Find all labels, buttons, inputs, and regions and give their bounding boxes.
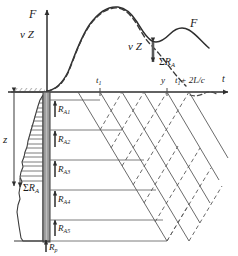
resistance-label-1: RA1: [58, 105, 70, 114]
tick-label-t1: t1: [96, 76, 101, 85]
time-axis-label: t: [222, 74, 225, 84]
resistance-1-base: R: [58, 104, 64, 114]
resistance-1-sub: A1: [64, 109, 71, 115]
resistance-label-2: RA2: [58, 135, 70, 144]
resistance-2-base: R: [58, 134, 64, 144]
depth-label: z: [3, 134, 7, 145]
resistance-label-5: RA5: [58, 224, 70, 233]
resistance-4-base: R: [58, 194, 64, 204]
force-curve-label: F: [190, 17, 197, 29]
resistance-3-sub: A3: [64, 169, 71, 175]
resistance-5-base: R: [58, 223, 64, 233]
velocity-curve-label: v Z: [128, 41, 142, 52]
upgoing-characteristics: [100, 92, 222, 241]
sum-resistance-lower-sub: A: [35, 187, 39, 194]
toe-resistance-base: R: [49, 242, 55, 252]
tick-label-t1-plus-2Lc: t1+ 2L/c: [175, 76, 205, 85]
sum-resistance-lower-label: ΣRA: [23, 183, 39, 193]
velocity-axis-label: v Z: [20, 29, 34, 40]
resistance-3-base: R: [58, 164, 64, 174]
sum-resistance-upper-sub: A: [171, 61, 175, 68]
resistance-label-4: RA4: [58, 195, 70, 204]
resistance-5-sub: A5: [64, 228, 71, 234]
downgoing-characteristics: [78, 92, 228, 241]
force-axis-label: F: [29, 8, 36, 20]
wave-equation-figure: F v Z F v Z ΣRA t1 y t1+ 2L/c t z ΣRA RA…: [0, 0, 238, 256]
tick-t2-suffix: + 2L/c: [180, 75, 204, 85]
toe-resistance-label: Rp: [49, 243, 57, 252]
resistance-label-3: RA3: [58, 165, 70, 174]
tick-label-y: y: [161, 76, 165, 85]
resistance-distribution-profile: [17, 95, 43, 241]
resistance-2-sub: A2: [64, 139, 71, 145]
figure-canvas: [0, 0, 238, 256]
tick-t1-sub: 1: [99, 80, 102, 86]
sum-resistance-upper-label: ΣRA: [159, 57, 175, 67]
ground-surface-hatch: [11, 88, 46, 93]
pile-shaft: [43, 92, 50, 242]
toe-resistance-sub: p: [55, 247, 58, 253]
resistance-4-sub: A4: [64, 199, 71, 205]
